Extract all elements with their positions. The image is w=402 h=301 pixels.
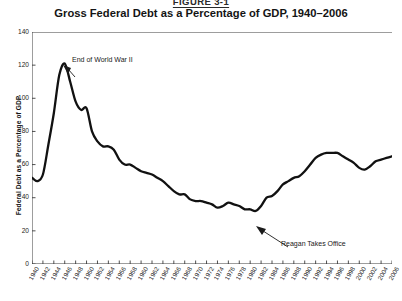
plot-frame	[32, 32, 392, 264]
y-axis-tick-labels: 140120100806040200	[2, 32, 29, 264]
y-axis-tick-label: 20	[7, 228, 29, 235]
x-axis-tick-label: 1978	[235, 266, 247, 281]
x-axis-tick-label: 1962	[148, 266, 160, 281]
y-axis-ticks	[32, 65, 36, 264]
x-axis-tick-label: 1958	[126, 266, 138, 281]
figure-root: FIGURE 3-1 Gross Federal Debt as a Perce…	[0, 0, 402, 301]
x-axis-tick-label: 1956	[115, 266, 127, 281]
x-axis-tick-label: 2002	[366, 266, 378, 281]
x-axis-tick-label: 2004	[377, 266, 389, 281]
x-axis-tick-label: 1980	[246, 266, 258, 281]
annotation-reagan-takes-office: Reagan Takes Office	[281, 240, 346, 247]
x-axis-tick-label: 1960	[137, 266, 149, 281]
plot-area	[32, 32, 392, 264]
x-axis-tick-label: 1986	[279, 266, 291, 281]
x-axis-tick-label: 1964	[159, 266, 171, 281]
y-axis-tick-label: 40	[7, 194, 29, 201]
x-axis-tick-label: 2000	[355, 266, 367, 281]
x-axis-tick-label: 2006	[388, 266, 400, 281]
y-axis-tick-label: 80	[7, 128, 29, 135]
x-axis-tick-label: 1942	[39, 266, 51, 281]
y-axis-tick-label: 140	[7, 29, 29, 36]
x-axis-tick-label: 1982	[257, 266, 269, 281]
debt-line-chart	[32, 32, 392, 264]
y-axis-tick-label: 100	[7, 95, 29, 102]
y-axis-tick-label: 60	[7, 161, 29, 168]
y-axis-tick-label: 0	[7, 261, 29, 268]
chart-title: Gross Federal Debt as a Percentage of GD…	[0, 7, 402, 19]
annotation-end-of-world-war-ii: End of World War II	[72, 56, 133, 63]
x-axis-tick-label: 1940	[28, 266, 40, 281]
x-axis-tick-label: 1984	[268, 266, 280, 281]
x-axis-tick-labels: 1940194219441946194819501952195419561958…	[32, 266, 394, 301]
y-axis-tick-label: 120	[7, 62, 29, 69]
debt-series-line	[32, 63, 392, 211]
